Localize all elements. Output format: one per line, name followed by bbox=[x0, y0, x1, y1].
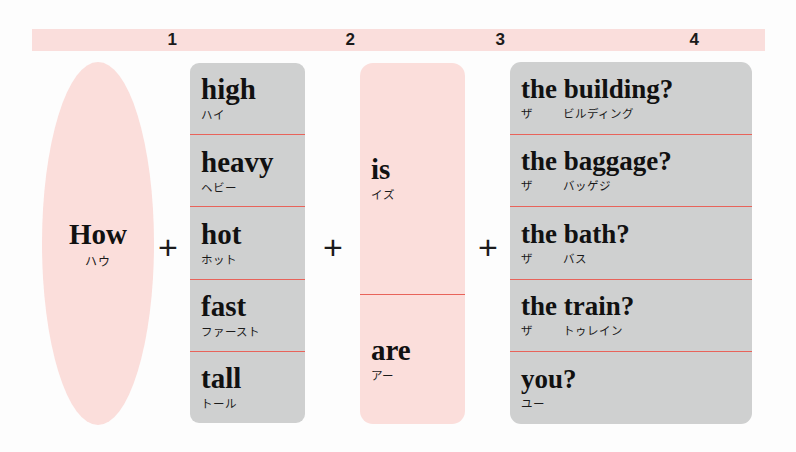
kana-noun: バッゲジ bbox=[563, 181, 611, 193]
kana-article: ザ bbox=[521, 181, 563, 193]
word-heavy-english: heavy bbox=[201, 148, 305, 177]
word-are-kana: アー bbox=[371, 371, 465, 383]
phrase-the-train-english: the train? bbox=[521, 293, 752, 320]
word-how-kana: ハウ bbox=[85, 256, 111, 268]
kana-noun: ビルディング bbox=[563, 109, 634, 121]
phrase-the-bath-kana: ザ バス bbox=[521, 254, 752, 266]
column-2-adjectives: high ハイ heavy ヘビー hot ホット fast ファースト tal… bbox=[190, 63, 305, 423]
column-number-1: 1 bbox=[168, 30, 177, 50]
column-number-4: 4 bbox=[690, 30, 699, 50]
word-how-english: How bbox=[69, 220, 127, 249]
word-hot-kana: ホット bbox=[201, 255, 305, 267]
phrase-you-english: you? bbox=[521, 366, 752, 393]
kana-noun: バス bbox=[563, 254, 587, 266]
worksheet-page: 1 2 3 4 How ハウ + high ハイ heavy ヘビー hot ホ… bbox=[0, 0, 796, 452]
phrase-the-baggage-english: the baggage? bbox=[521, 148, 752, 175]
column-1-subject: How ハウ bbox=[42, 62, 154, 425]
word-is-kana: イズ bbox=[371, 190, 465, 202]
phrase-the-bath-english: the bath? bbox=[521, 221, 752, 248]
list-item: fast ファースト bbox=[190, 279, 305, 351]
word-is-english: is bbox=[371, 155, 465, 184]
kana-noun: トゥレイン bbox=[563, 326, 623, 338]
column-number-3: 3 bbox=[496, 30, 505, 50]
phrase-you-kana: ユー bbox=[521, 399, 752, 411]
list-item: the building? ザ ビルディング bbox=[510, 62, 752, 134]
plus-operator-2: + bbox=[323, 230, 343, 264]
list-item: tall トール bbox=[190, 351, 305, 423]
kana-article: ザ bbox=[521, 109, 563, 121]
plus-operator-3: + bbox=[478, 230, 498, 264]
column-3-verbs: is イズ are アー bbox=[360, 63, 465, 424]
phrase-the-building-english: the building? bbox=[521, 76, 752, 103]
column-4-objects: the building? ザ ビルディング the baggage? ザ バッ… bbox=[510, 62, 752, 424]
phrase-the-baggage-kana: ザ バッゲジ bbox=[521, 181, 752, 193]
plus-operator-1: + bbox=[158, 230, 178, 264]
list-item: are アー bbox=[360, 294, 465, 424]
list-item: heavy ヘビー bbox=[190, 134, 305, 206]
list-item: you? ユー bbox=[510, 351, 752, 424]
word-heavy-kana: ヘビー bbox=[201, 183, 305, 195]
column-number-bar: 1 2 3 4 bbox=[32, 29, 765, 51]
word-fast-kana: ファースト bbox=[201, 327, 305, 339]
list-item: the bath? ザ バス bbox=[510, 206, 752, 279]
word-tall-english: tall bbox=[201, 364, 305, 393]
kana-article: ザ bbox=[521, 326, 563, 338]
word-fast-english: fast bbox=[201, 292, 305, 321]
word-tall-kana: トール bbox=[201, 399, 305, 411]
kana-article: ユー bbox=[521, 399, 563, 411]
list-item: high ハイ bbox=[190, 63, 305, 134]
word-hot-english: hot bbox=[201, 220, 305, 249]
word-are-english: are bbox=[371, 336, 465, 365]
list-item: hot ホット bbox=[190, 206, 305, 278]
word-high-kana: ハイ bbox=[201, 110, 305, 122]
phrase-the-building-kana: ザ ビルディング bbox=[521, 109, 752, 121]
column-number-2: 2 bbox=[346, 30, 355, 50]
list-item: the baggage? ザ バッゲジ bbox=[510, 134, 752, 207]
list-item: is イズ bbox=[360, 63, 465, 294]
list-item: the train? ザ トゥレイン bbox=[510, 279, 752, 352]
word-high-english: high bbox=[201, 75, 305, 104]
phrase-the-train-kana: ザ トゥレイン bbox=[521, 326, 752, 338]
kana-article: ザ bbox=[521, 254, 563, 266]
